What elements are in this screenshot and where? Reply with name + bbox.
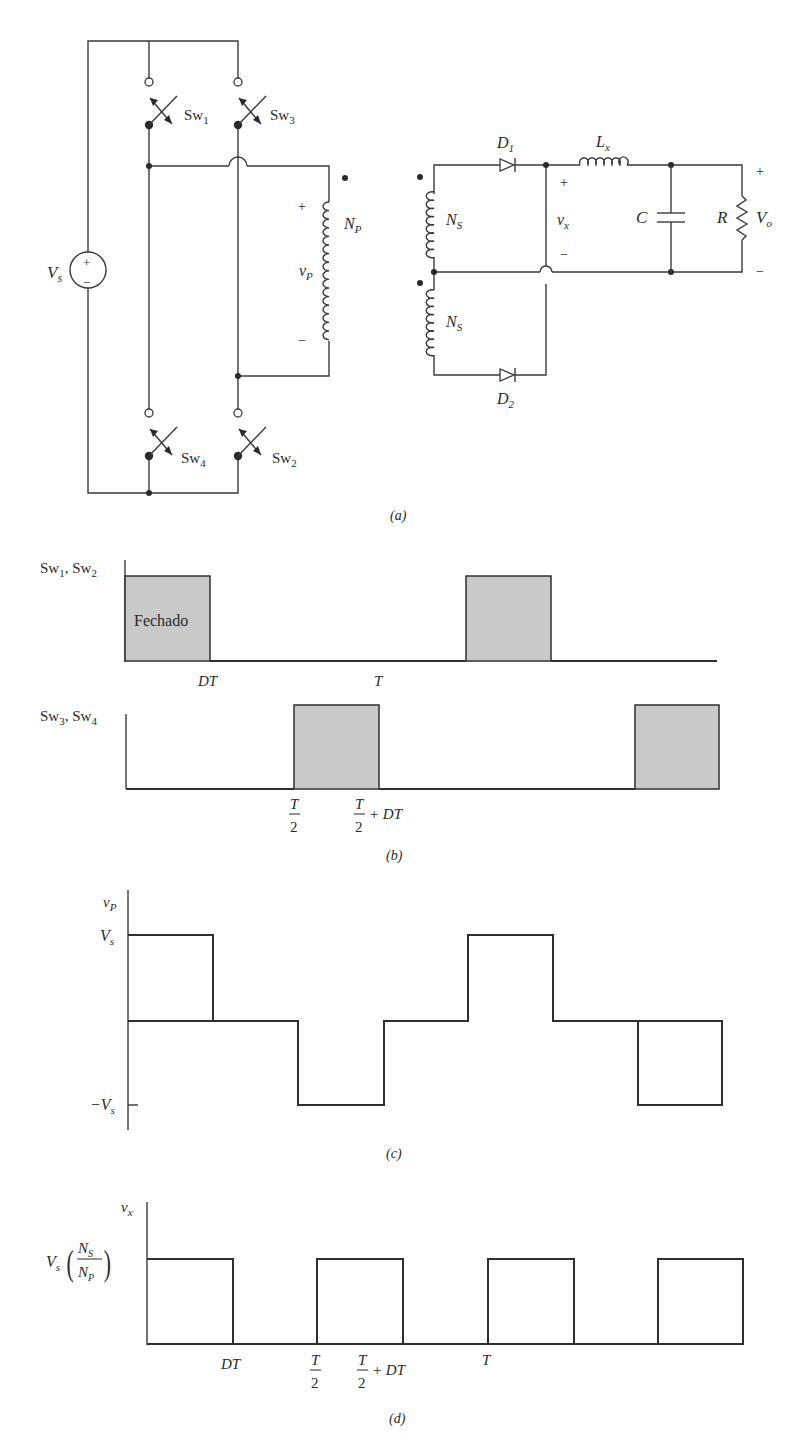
vp-minus: − [298, 333, 306, 348]
tick-t-half-b: T 2 [289, 796, 300, 835]
source-label: Vs [47, 263, 62, 285]
r-label: R [716, 208, 728, 227]
tick-t-d: T [482, 1352, 492, 1368]
ns-lower-label: NS [445, 313, 463, 333]
sw34-pulse-1 [294, 705, 379, 789]
vx-waveform-chart: vx Vs ( NS NP ) DT T 2 T 2 + DT T [46, 1199, 743, 1391]
lx-label: Lx [595, 133, 610, 153]
diode-d2-icon [500, 368, 515, 382]
vp-axis-label: vP [103, 894, 117, 913]
secondary-lower-winding-icon [426, 290, 434, 356]
switch-sw2-icon [234, 409, 266, 460]
tick-dt-d: DT [220, 1356, 242, 1372]
sw4-label: Sw4 [181, 450, 206, 469]
vp-label: vP [299, 262, 313, 282]
svg-text:2: 2 [355, 819, 363, 835]
vp-waveform-chart: vP Vs −Vs [90, 890, 722, 1130]
sw1-label: Sw1 [184, 107, 209, 126]
vo-plus: + [756, 164, 764, 179]
inductor-lx-icon [580, 157, 629, 165]
tick-t-b: T [374, 673, 384, 689]
primary-winding-icon [323, 175, 348, 340]
capacitor-icon [657, 165, 685, 272]
svg-text:(: ( [67, 1243, 74, 1283]
svg-text:T: T [290, 796, 300, 812]
resistor-icon [737, 196, 747, 240]
svg-text:T: T [355, 796, 365, 812]
full-bridge-converter-figure: + − Vs Sw1 Sw3 [0, 0, 798, 1453]
tick-t-half-d: T 2 [310, 1352, 321, 1391]
switch-sw4-icon [145, 409, 177, 460]
tick-dt-b: DT [197, 673, 219, 689]
d2-label: D2 [496, 390, 515, 410]
svg-text:T: T [311, 1352, 321, 1368]
caption-b: (b) [386, 848, 403, 864]
svg-text:): ) [104, 1243, 111, 1283]
svg-text:NS: NS [77, 1240, 93, 1259]
vx-minus: − [560, 247, 568, 262]
np-label: NP [343, 215, 362, 235]
switch-timing-chart: Fechado Sw1, Sw2 DT T Sw3, Sw4 T 2 T 2 +… [40, 560, 719, 835]
diode-d1-icon [500, 158, 515, 172]
sw12-axis-label: Sw1, Sw2 [40, 560, 97, 579]
caption-c: (c) [386, 1146, 402, 1162]
sw34-pulse-2 [635, 705, 719, 789]
primary-bridge-circuit: + − Vs Sw1 Sw3 [47, 41, 362, 496]
switch-sw1-icon [145, 78, 177, 129]
d1-label: D1 [496, 134, 514, 154]
ns-upper-label: NS [445, 211, 463, 231]
vx-level-label: Vs ( NS NP ) [46, 1240, 111, 1283]
svg-text:+ DT: + DT [369, 806, 404, 822]
secondary-rectifier-circuit: NS NS D1 D2 + vx − [417, 133, 772, 410]
sw2-label: Sw2 [272, 450, 297, 469]
caption-a: (a) [390, 508, 407, 524]
vs-tick-label: Vs [100, 927, 114, 947]
svg-text:T: T [358, 1352, 368, 1368]
svg-text:−: − [83, 275, 90, 290]
vx-plus: + [560, 175, 568, 190]
vx-label: vx [557, 211, 569, 231]
dc-source-icon: + − [70, 252, 106, 290]
fechado-label: Fechado [134, 612, 188, 629]
svg-text:NP: NP [77, 1264, 94, 1283]
svg-text:2: 2 [311, 1375, 319, 1391]
vo-label: Vo [756, 208, 772, 229]
sw12-pulse-2 [466, 576, 551, 661]
svg-text:+ DT: + DT [372, 1362, 407, 1378]
switch-sw3-icon [234, 78, 266, 129]
svg-text:+: + [83, 255, 90, 270]
vp-plus: + [298, 199, 306, 214]
vo-minus: − [756, 264, 764, 279]
svg-text:2: 2 [290, 819, 298, 835]
tick-t-half-dt-b: T 2 + DT [354, 796, 404, 835]
c-label: C [636, 208, 648, 227]
svg-text:2: 2 [358, 1375, 366, 1391]
vx-axis-label: vx [121, 1199, 133, 1218]
svg-text:Vs: Vs [46, 1253, 60, 1273]
tick-t-half-dt-d: T 2 + DT [357, 1352, 407, 1391]
secondary-upper-winding-icon [426, 192, 434, 258]
sw3-label: Sw3 [270, 107, 295, 126]
sw34-axis-label: Sw3, Sw4 [40, 708, 97, 727]
caption-d: (d) [389, 1411, 406, 1427]
neg-vs-tick-label: −Vs [90, 1096, 115, 1116]
